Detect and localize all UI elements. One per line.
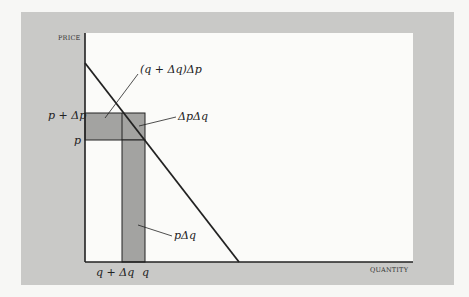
tick-label-q-plus-dq: q + Δq bbox=[96, 267, 134, 278]
x-axis-label: QUANTITY bbox=[370, 267, 408, 274]
tick-label-p-plus-dp: p + Δp bbox=[48, 110, 86, 121]
annotation-lower-rect: pΔq bbox=[174, 230, 196, 241]
demand-diagram bbox=[0, 0, 469, 297]
upper-rect-region bbox=[85, 113, 145, 140]
annotation-upper-rect: (q + Δq)Δp bbox=[140, 64, 202, 75]
tick-label-p: p bbox=[74, 135, 81, 146]
annotation-corner-rect: ΔpΔq bbox=[178, 111, 208, 122]
demand-curve bbox=[85, 63, 239, 262]
y-axis-label: PRICE bbox=[58, 35, 81, 42]
tick-label-q: q bbox=[142, 267, 149, 278]
lower-rect-region bbox=[122, 140, 145, 262]
